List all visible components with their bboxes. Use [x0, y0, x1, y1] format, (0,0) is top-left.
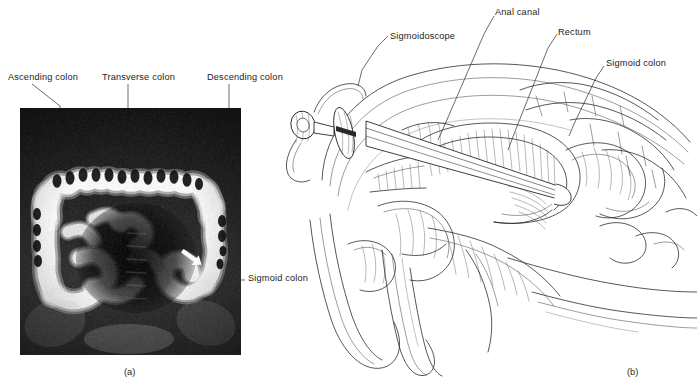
pelvic-organs [348, 201, 454, 291]
caption-panel-b: (b) [627, 366, 638, 377]
radiograph-canvas [20, 108, 241, 355]
pelvis-sagittal-illustration [270, 0, 697, 387]
sigmoid-colon-coils [566, 143, 665, 219]
anal-canal [366, 156, 426, 192]
pelvic-floor-muscles [428, 228, 560, 352]
thigh-outline [508, 258, 697, 332]
panel-b-drawing: Sigmoidoscope Anal canal Rectum Sigmoid … [270, 0, 697, 387]
external-genitalia [310, 214, 442, 376]
panel-a-radiograph: Ascending colon Transverse colon Descend… [0, 0, 300, 387]
caption-panel-a: (a) [124, 366, 135, 377]
radiograph-image [20, 108, 241, 355]
figure-root: Ascending colon Transverse colon Descend… [0, 0, 697, 387]
